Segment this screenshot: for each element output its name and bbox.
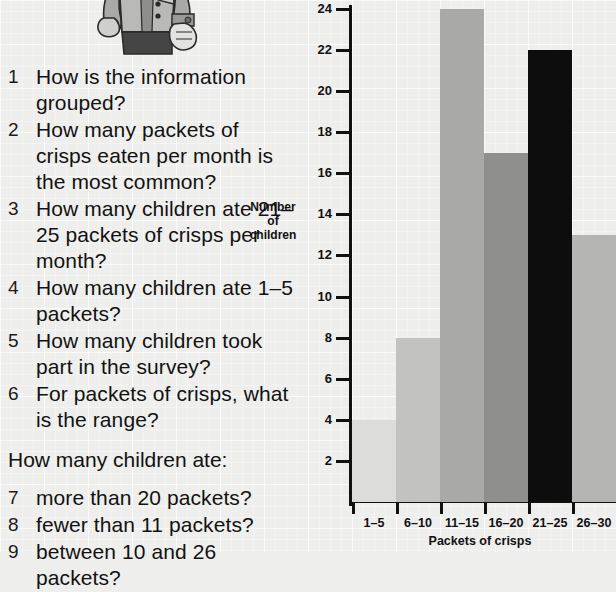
x-axis-tick — [352, 503, 355, 514]
y-axis-tick-label: 18 — [302, 124, 332, 139]
question-number: 3 — [0, 196, 36, 222]
x-axis-tick — [484, 503, 487, 514]
x-axis-title: Packets of crisps — [360, 534, 600, 548]
list-item: 2 How many packets of crisps eaten per m… — [0, 117, 300, 195]
x-axis-tick — [572, 503, 575, 514]
list-item: 4 How many children ate 1–5 packets? — [0, 275, 300, 327]
bar-26-30 — [572, 235, 616, 502]
y-axis-tick-label: 6 — [302, 371, 332, 386]
y-axis-tick — [336, 337, 350, 340]
y-axis-title-line: Number — [242, 200, 304, 214]
bar-1-5 — [352, 420, 396, 502]
y-axis-tick-label: 14 — [302, 206, 332, 221]
question-text: fewer than 11 packets? — [36, 512, 254, 538]
question-text: How many packets of crisps eaten per mon… — [36, 117, 300, 195]
x-axis-tick — [440, 503, 443, 514]
y-axis-tick — [336, 460, 350, 463]
y-axis-tick — [336, 8, 350, 11]
y-axis-tick-label: 2 — [302, 453, 332, 468]
y-axis-title: Numberofchildren — [242, 200, 304, 242]
y-axis-tick — [336, 131, 350, 134]
question-text: How is the information grouped? — [36, 64, 300, 116]
question-text: between 10 and 26 packets? — [36, 539, 300, 591]
question-number: 1 — [0, 64, 36, 90]
question-text: more than 20 packets? — [36, 485, 252, 511]
question-number: 8 — [0, 512, 36, 538]
y-axis-tick — [336, 90, 350, 93]
y-axis-tick — [336, 254, 350, 257]
question-number: 7 — [0, 485, 36, 511]
y-axis-tick — [336, 49, 350, 52]
questions-column: 1 How is the information grouped? 2 How … — [0, 0, 300, 552]
bar-chart: Numberofchildren Packets of crisps 24681… — [300, 0, 616, 552]
list-item: 8 fewer than 11 packets? — [0, 512, 300, 538]
y-axis-tick — [336, 172, 350, 175]
question-number: 2 — [0, 117, 36, 143]
y-axis-tick — [336, 213, 350, 216]
bar-6-10 — [396, 338, 440, 502]
y-axis-tick-label: 8 — [302, 330, 332, 345]
plot-area — [350, 9, 616, 502]
list-item: 7 more than 20 packets? — [0, 485, 300, 511]
list-item: 1 How is the information grouped? — [0, 64, 300, 116]
question-text: How many children took part in the surve… — [36, 328, 300, 380]
bar-16-20 — [484, 153, 528, 502]
question-number: 9 — [0, 539, 36, 565]
y-axis-tick-label: 16 — [302, 165, 332, 180]
list-item: 9 between 10 and 26 packets? — [0, 539, 300, 591]
y-axis-tick-label: 20 — [302, 83, 332, 98]
question-number: 4 — [0, 275, 36, 301]
y-axis-tick-label: 24 — [302, 1, 332, 16]
bar-11-15 — [440, 9, 484, 502]
y-axis-tick-label: 22 — [302, 42, 332, 57]
x-axis-tick-label: 26–30 — [564, 516, 616, 530]
question-number: 6 — [0, 381, 36, 407]
list-item: 5 How many children took part in the sur… — [0, 328, 300, 380]
y-axis-title-line: children — [242, 228, 304, 242]
x-axis-tick — [396, 503, 399, 514]
y-axis-tick-label: 4 — [302, 412, 332, 427]
y-axis-tick-label: 10 — [302, 289, 332, 304]
y-axis-tick — [336, 378, 350, 381]
boy-character-illustration — [88, 0, 206, 62]
y-axis-title-line: of — [242, 214, 304, 228]
list-item: 6 For packets of crisps, what is the ran… — [0, 381, 300, 433]
y-axis-tick — [336, 419, 350, 422]
question-text: How many children ate 1–5 packets? — [36, 275, 300, 327]
y-axis-tick-label: 12 — [302, 247, 332, 262]
question-number: 5 — [0, 328, 36, 354]
section-prompt: How many children ate: — [0, 447, 300, 473]
bar-21-25 — [528, 50, 572, 502]
y-axis-tick — [336, 296, 350, 299]
question-list: 1 How is the information grouped? 2 How … — [0, 64, 300, 592]
x-axis-tick — [528, 503, 531, 514]
question-text: For packets of crisps, what is the range… — [36, 381, 300, 433]
